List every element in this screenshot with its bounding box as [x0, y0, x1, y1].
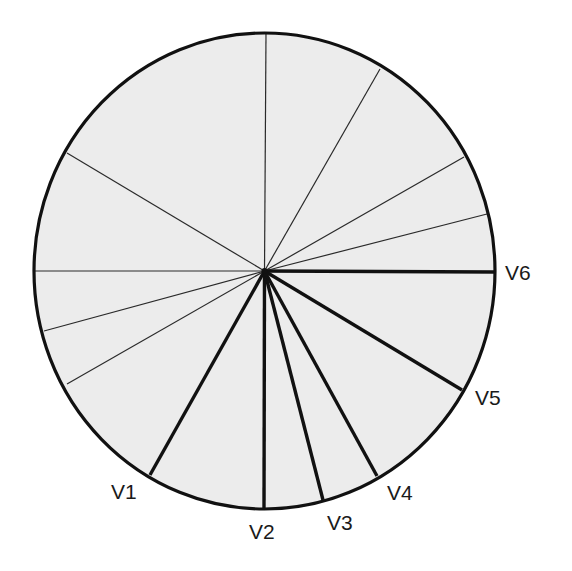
label-v3: V3	[327, 512, 353, 533]
label-v1: V1	[111, 481, 137, 502]
radial-line-v2	[264, 271, 265, 509]
label-v2: V2	[249, 521, 275, 542]
label-v6: V6	[505, 262, 531, 283]
radial-line-v6	[265, 271, 496, 272]
radial-diagram	[0, 0, 572, 571]
label-v5: V5	[475, 387, 501, 408]
center-point	[262, 268, 268, 274]
label-v4: V4	[387, 482, 413, 503]
